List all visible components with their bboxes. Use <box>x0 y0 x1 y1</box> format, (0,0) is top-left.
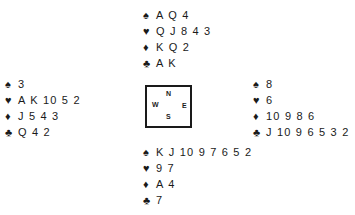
north-clubs: ♣A K <box>143 55 211 71</box>
north-diamonds: ♦K Q 2 <box>143 39 211 55</box>
club-icon: ♣ <box>253 124 266 140</box>
diamond-icon: ♦ <box>5 108 18 124</box>
east-clubs: ♣J 10 9 6 5 3 2 <box>253 124 349 140</box>
compass-east: E <box>182 102 187 109</box>
heart-icon: ♥ <box>143 160 156 176</box>
compass-box: N W E S <box>145 85 192 128</box>
south-hand: ♠K J 10 9 7 6 5 2 ♥9 7 ♦A 4 ♣7 <box>143 144 252 208</box>
spade-icon: ♠ <box>143 7 156 23</box>
east-hearts: ♥6 <box>253 92 349 108</box>
south-spades: ♠K J 10 9 7 6 5 2 <box>143 144 252 160</box>
club-icon: ♣ <box>143 192 156 208</box>
west-hand: ♠3 ♥A K 10 5 2 ♦J 5 4 3 ♣Q 4 2 <box>5 76 81 140</box>
east-hand: ♠8 ♥6 ♦10 9 8 6 ♣J 10 9 6 5 3 2 <box>253 76 349 140</box>
east-diamonds: ♦10 9 8 6 <box>253 108 349 124</box>
diamond-icon: ♦ <box>143 39 156 55</box>
west-spades: ♠3 <box>5 76 81 92</box>
diamond-icon: ♦ <box>253 108 266 124</box>
west-diamonds: ♦J 5 4 3 <box>5 108 81 124</box>
diamond-icon: ♦ <box>143 176 156 192</box>
heart-icon: ♥ <box>253 92 266 108</box>
heart-icon: ♥ <box>143 23 156 39</box>
south-hearts: ♥9 7 <box>143 160 252 176</box>
south-diamonds: ♦A 4 <box>143 176 252 192</box>
spade-icon: ♠ <box>143 144 156 160</box>
north-spades: ♠A Q 4 <box>143 7 211 23</box>
heart-icon: ♥ <box>5 92 18 108</box>
spade-icon: ♠ <box>5 76 18 92</box>
east-spades: ♠8 <box>253 76 349 92</box>
compass-south: S <box>166 113 171 120</box>
club-icon: ♣ <box>5 124 18 140</box>
north-hand: ♠A Q 4 ♥Q J 8 4 3 ♦K Q 2 ♣A K <box>143 7 211 71</box>
west-hearts: ♥A K 10 5 2 <box>5 92 81 108</box>
compass-west: W <box>152 101 159 108</box>
club-icon: ♣ <box>143 55 156 71</box>
north-hearts: ♥Q J 8 4 3 <box>143 23 211 39</box>
spade-icon: ♠ <box>253 76 266 92</box>
compass-north: N <box>166 90 171 97</box>
south-clubs: ♣7 <box>143 192 252 208</box>
west-clubs: ♣Q 4 2 <box>5 124 81 140</box>
